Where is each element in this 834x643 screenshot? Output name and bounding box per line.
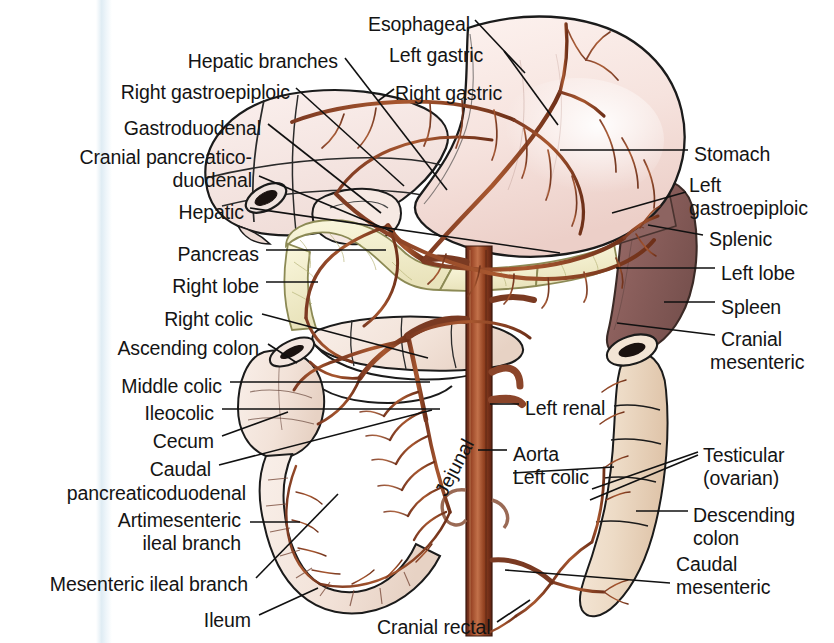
- label-caudal-mesenteric-l1: Caudal: [676, 553, 737, 576]
- label-stomach: Stomach: [694, 143, 770, 166]
- label-cranial-mesenteric-l2: mesenteric: [710, 351, 804, 374]
- label-hepatic: Hepatic: [179, 201, 244, 224]
- label-splenic: Splenic: [709, 228, 772, 251]
- label-caudal-pancreaticoduodenal-l1: Caudal: [150, 458, 211, 481]
- label-caudal-pancreaticoduodenal-l2: pancreaticoduodenal: [67, 482, 246, 505]
- label-gastroduodenal: Gastroduodenal: [124, 117, 261, 140]
- label-cecum: Cecum: [153, 430, 214, 453]
- label-antimesenteric-ileal-branch-l1: Artimesenteric: [118, 509, 241, 532]
- label-aorta: Aorta: [513, 443, 559, 466]
- label-left-colic: Left colic: [513, 466, 589, 489]
- label-left-gastroepiploic-l1: Left: [689, 174, 721, 197]
- label-right-colic: Right colic: [164, 308, 253, 331]
- anatomy-figure-page: Hepatic branchesRight gastroepiploicGast…: [0, 0, 834, 643]
- label-left-gastric: Left gastric: [389, 44, 483, 67]
- label-cranial-mesenteric-l1: Cranial: [721, 328, 782, 351]
- label-cranial-pancreaticoduodenal-l1: Cranial pancreatico-: [79, 146, 252, 169]
- label-testicular-l1: Testicular: [703, 444, 784, 467]
- label-pancreas: Pancreas: [177, 243, 259, 266]
- label-left-renal: Left renal: [525, 397, 605, 420]
- label-esophageal: Esophageal: [368, 13, 470, 36]
- label-right-gastric: Right gastric: [395, 82, 502, 105]
- label-caudal-mesenteric-l2: mesenteric: [676, 576, 770, 599]
- label-left-gastroepiploic-l2: gastroepiploic: [689, 197, 808, 220]
- label-cranial-rectal: Cranial rectal: [377, 616, 490, 639]
- label-descending-colon-l1: Descending: [693, 504, 795, 527]
- label-middle-colic: Middle colic: [121, 375, 222, 398]
- label-right-lobe: Right lobe: [172, 275, 259, 298]
- label-ascending-colon: Ascending colon: [117, 337, 259, 360]
- label-spleen: Spleen: [721, 296, 781, 319]
- label-descending-colon-l2: colon: [693, 527, 739, 550]
- label-right-gastroepiploic: Right gastroepiploic: [121, 81, 290, 104]
- label-antimesenteric-ileal-branch-l2: ileal branch: [142, 532, 241, 555]
- label-left-lobe: Left lobe: [721, 262, 795, 285]
- label-ileocolic: Ileocolic: [144, 402, 214, 425]
- label-testicular-l2: (ovarian): [703, 467, 779, 490]
- label-cranial-pancreaticoduodenal-l2: duodenal: [173, 169, 252, 192]
- label-hepatic-branches: Hepatic branches: [188, 50, 338, 73]
- label-ileum: Ileum: [204, 609, 251, 632]
- label-mesenteric-ileal-branch: Mesenteric ileal branch: [50, 573, 248, 596]
